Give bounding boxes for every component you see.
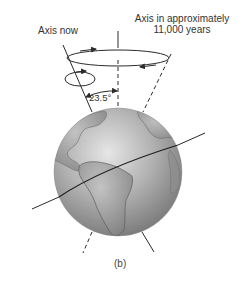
precession-circle: [67, 49, 169, 67]
axis-now-label: Axis now: [38, 25, 78, 36]
diagram-svg: [0, 0, 246, 285]
tilt-angle-label: 23.5°: [89, 92, 111, 103]
axis-future-label-line2: 11,000 years: [128, 24, 236, 35]
figure-caption: (b): [114, 258, 126, 269]
earth-globe: [54, 108, 182, 236]
axis-future-label: Axis in approximately 11,000 years: [128, 13, 236, 35]
precession-diagram: Axis now Axis in approximately 11,000 ye…: [0, 0, 246, 285]
axis-future-label-line1: Axis in approximately: [128, 13, 236, 24]
